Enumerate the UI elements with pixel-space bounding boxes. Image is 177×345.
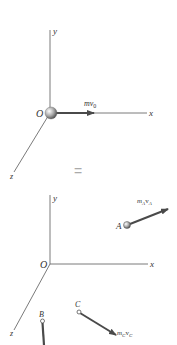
particle-sphere [45,107,57,119]
top-y-label: y [52,26,57,36]
mcvc-label: mCvC [117,329,133,338]
mbvb-arrow [43,323,45,345]
bottom-x-label: x [149,259,154,269]
particle-c-sphere [77,310,81,314]
mcvc-arrow [80,313,116,335]
mv0-sub: 0 [93,103,96,109]
top-z-axis [14,113,50,172]
top-z-label: z [9,172,14,181]
top-diagram: y x z O mv0 [9,26,153,181]
particle-a: A mAvA [115,197,168,231]
mv0-main: mv [84,99,94,108]
equals-sign: = [74,163,82,179]
top-origin-label: O [36,108,43,119]
momentum-diagram: y x z O mv0 = y x z O A mAvA [0,0,177,345]
particle-c: C mCvC [75,300,133,338]
bottom-diagram: y x z O A mAvA B C mCvC [9,193,168,345]
particle-a-label: A [115,221,122,231]
top-x-label: x [148,108,153,118]
particle-b-sphere [41,319,45,323]
mv0-label: mv0 [84,99,96,109]
particle-c-label: C [75,300,81,309]
mava-arrow [130,209,168,224]
mava-label: mAvA [137,197,153,206]
bottom-origin-label: O [40,259,47,270]
bottom-y-label: y [52,193,57,203]
particle-b-label: B [39,310,44,319]
particle-b: B [39,310,45,345]
particle-a-sphere [124,222,131,229]
bottom-z-label: z [9,329,14,338]
